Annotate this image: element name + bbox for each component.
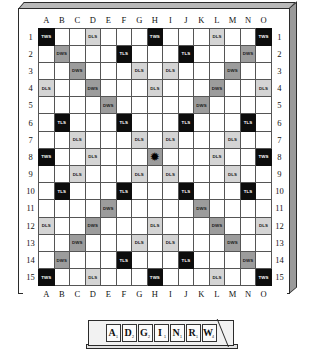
square-plain-h10[interactable] [147, 183, 163, 200]
square-plain-f15[interactable] [116, 269, 132, 286]
square-plain-a2[interactable] [39, 45, 55, 62]
square-plain-d6[interactable] [85, 114, 101, 131]
square-plain-i14[interactable] [163, 251, 179, 268]
square-dws-b2[interactable]: DWS [54, 45, 70, 62]
square-plain-e2[interactable] [101, 45, 117, 62]
square-plain-b7[interactable] [54, 131, 70, 148]
square-plain-c8[interactable] [70, 148, 86, 165]
square-dws-e11[interactable]: DWS [101, 200, 117, 217]
square-plain-h9[interactable] [147, 166, 163, 183]
square-plain-f3[interactable] [116, 62, 132, 79]
square-plain-a3[interactable] [39, 62, 55, 79]
square-plain-h3[interactable] [147, 62, 163, 79]
square-plain-j15[interactable] [178, 269, 194, 286]
square-plain-i15[interactable] [163, 269, 179, 286]
square-dws-m3[interactable]: DWS [225, 62, 241, 79]
square-plain-i12[interactable] [163, 217, 179, 234]
square-plain-a11[interactable] [39, 200, 55, 217]
square-plain-e7[interactable] [101, 131, 117, 148]
square-plain-l5[interactable] [209, 97, 225, 114]
square-plain-o11[interactable] [256, 200, 272, 217]
square-plain-l2[interactable] [209, 45, 225, 62]
square-plain-e14[interactable] [101, 251, 117, 268]
square-plain-j3[interactable] [178, 62, 194, 79]
board-grid-area[interactable]: ABCDEFGHIJKLMNO1TWSDLSTWSDLSTWS12DWSTLST… [23, 13, 287, 291]
square-plain-j11[interactable] [178, 200, 194, 217]
square-plain-j9[interactable] [178, 166, 194, 183]
rack-tile-d[interactable]: D2 [122, 324, 137, 342]
square-plain-g1[interactable] [132, 28, 148, 45]
square-tws-o15[interactable]: TWS [256, 269, 272, 286]
square-plain-j7[interactable] [178, 131, 194, 148]
square-plain-f12[interactable] [116, 217, 132, 234]
square-plain-n5[interactable] [240, 97, 256, 114]
square-plain-h14[interactable] [147, 251, 163, 268]
square-tls-f6[interactable]: TLS [116, 114, 132, 131]
square-plain-h11[interactable] [147, 200, 163, 217]
square-plain-l6[interactable] [209, 114, 225, 131]
rack-tile-i[interactable]: I1 [154, 324, 169, 342]
square-plain-c5[interactable] [70, 97, 86, 114]
square-tls-f14[interactable]: TLS [116, 251, 132, 268]
square-plain-m14[interactable] [225, 251, 241, 268]
square-plain-b5[interactable] [54, 97, 70, 114]
square-plain-i4[interactable] [163, 80, 179, 97]
square-dls-o4[interactable]: DLS [256, 80, 272, 97]
square-plain-k3[interactable] [194, 62, 210, 79]
square-tws-a8[interactable]: TWS [39, 148, 55, 165]
square-plain-k4[interactable] [194, 80, 210, 97]
square-plain-a5[interactable] [39, 97, 55, 114]
square-plain-k6[interactable] [194, 114, 210, 131]
square-plain-c12[interactable] [70, 217, 86, 234]
square-plain-l9[interactable] [209, 166, 225, 183]
square-plain-d7[interactable] [85, 131, 101, 148]
square-plain-g15[interactable] [132, 269, 148, 286]
square-plain-o7[interactable] [256, 131, 272, 148]
square-dls-g3[interactable]: DLS [132, 62, 148, 79]
square-plain-j12[interactable] [178, 217, 194, 234]
square-plain-l10[interactable] [209, 183, 225, 200]
square-plain-n12[interactable] [240, 217, 256, 234]
square-plain-i1[interactable] [163, 28, 179, 45]
square-plain-m6[interactable] [225, 114, 241, 131]
square-tls-b10[interactable]: TLS [54, 183, 70, 200]
square-dls-l8[interactable]: DLS [209, 148, 225, 165]
square-plain-e10[interactable] [101, 183, 117, 200]
square-plain-k2[interactable] [194, 45, 210, 62]
square-dws-k11[interactable]: DWS [194, 200, 210, 217]
square-plain-g11[interactable] [132, 200, 148, 217]
square-tws-a15[interactable]: TWS [39, 269, 55, 286]
square-plain-g6[interactable] [132, 114, 148, 131]
square-tls-j6[interactable]: TLS [178, 114, 194, 131]
square-dls-i13[interactable]: DLS [163, 234, 179, 251]
square-plain-c10[interactable] [70, 183, 86, 200]
square-plain-c1[interactable] [70, 28, 86, 45]
square-tls-n6[interactable]: TLS [240, 114, 256, 131]
square-tls-n10[interactable]: TLS [240, 183, 256, 200]
square-tws-h15[interactable]: TWS [147, 269, 163, 286]
square-plain-f11[interactable] [116, 200, 132, 217]
square-plain-n8[interactable] [240, 148, 256, 165]
square-dls-c9[interactable]: DLS [70, 166, 86, 183]
square-plain-g2[interactable] [132, 45, 148, 62]
square-plain-n9[interactable] [240, 166, 256, 183]
square-plain-l11[interactable] [209, 200, 225, 217]
square-plain-m10[interactable] [225, 183, 241, 200]
square-plain-b15[interactable] [54, 269, 70, 286]
square-plain-e4[interactable] [101, 80, 117, 97]
square-dws-d12[interactable]: DWS [85, 217, 101, 234]
square-plain-n3[interactable] [240, 62, 256, 79]
square-plain-k8[interactable] [194, 148, 210, 165]
square-plain-o9[interactable] [256, 166, 272, 183]
square-dls-a12[interactable]: DLS [39, 217, 55, 234]
square-dws-n2[interactable]: DWS [240, 45, 256, 62]
square-plain-d3[interactable] [85, 62, 101, 79]
square-plain-k7[interactable] [194, 131, 210, 148]
square-dls-i7[interactable]: DLS [163, 131, 179, 148]
square-plain-a9[interactable] [39, 166, 55, 183]
square-plain-f4[interactable] [116, 80, 132, 97]
square-dls-c7[interactable]: DLS [70, 131, 86, 148]
square-dls-d8[interactable]: DLS [85, 148, 101, 165]
tile-rack-area[interactable]: A1D2G2I1N1R1W4 [0, 318, 317, 352]
square-plain-i5[interactable] [163, 97, 179, 114]
